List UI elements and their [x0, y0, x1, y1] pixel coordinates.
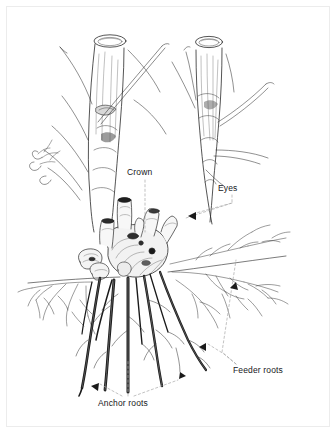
arrow-anchor-right: [179, 372, 186, 379]
leader-feeder-lower: [208, 344, 236, 364]
leader-anchor-left: [100, 384, 122, 396]
branchlets-right: [172, 47, 274, 186]
leader-anchor-right: [134, 380, 178, 396]
label-eyes: Eyes: [218, 184, 238, 193]
arrow-feeder-upper: [230, 282, 238, 290]
arrow-anchor-left: [91, 383, 99, 391]
arrow-eyes: [188, 212, 196, 220]
eye-bud: [139, 241, 143, 245]
figure-page: Crown Eyes Feeder roots Anchor roots: [0, 0, 336, 433]
leader-feeder-upper: [222, 260, 236, 364]
eye-bud: [128, 233, 139, 239]
illustration-ink: [18, 35, 290, 396]
label-crown: Crown: [127, 168, 152, 177]
label-anchor-roots: Anchor roots: [98, 399, 148, 408]
stem-right: [196, 36, 223, 224]
eye-bud: [149, 248, 155, 254]
crown-mass: [28, 198, 286, 283]
leader-eyes: [196, 195, 232, 213]
root-system-illustration: [0, 0, 336, 433]
eye-bud: [142, 261, 150, 266]
label-feeder-roots: Feeder roots: [233, 366, 283, 375]
